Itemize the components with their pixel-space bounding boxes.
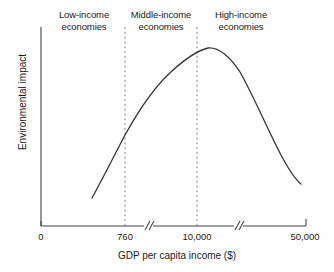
region-middle-line1: Middle-income [123,9,199,21]
region-middle-line2: economies [123,21,199,33]
x-tick-label-760: 760 [108,231,142,242]
x-tick-label-10000: 10,000 [173,231,221,242]
region-low-line2: economies [46,21,122,33]
axis-break-mark-2 [235,221,244,230]
region-label-low-income: Low-income economies [46,9,122,32]
environmental-kuznets-curve-figure: Low-income economies Middle-income econo… [0,0,334,272]
region-label-high-income: High-income economies [203,9,279,32]
region-high-line2: economies [203,21,279,33]
x-tick-label-50000: 50,000 [281,231,329,242]
region-label-middle-income: Middle-income economies [123,9,199,32]
region-low-line1: Low-income [46,9,122,21]
x-tick-label-0: 0 [31,231,51,242]
y-axis-title: Environmental impact [17,32,29,172]
axis-break-mark-1 [145,221,154,230]
x-axis-title: GDP per capita income ($) [53,250,301,262]
region-high-line1: High-income [203,9,279,21]
